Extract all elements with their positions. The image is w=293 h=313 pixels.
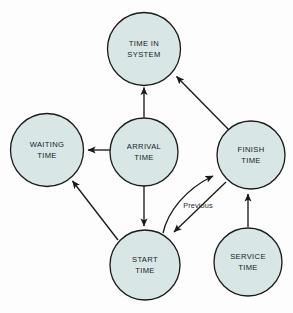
node-start-time[interactable]: START TIME (110, 230, 180, 300)
node-circle-service-time[interactable] (214, 228, 282, 296)
node-label-finish-time-line2: TIME (241, 156, 261, 165)
flow-diagram: Previous TIME IN SYSTEM WAITING TIME ARR… (0, 0, 293, 313)
node-label-time-in-system-line1: TIME IN (129, 39, 159, 48)
node-time-in-system[interactable]: TIME IN SYSTEM (108, 13, 181, 86)
node-label-start-time-line1: START (132, 255, 158, 264)
edge-finish-to-start-previous: Previous (174, 182, 226, 232)
node-service-time[interactable]: SERVICE TIME (214, 228, 282, 296)
node-label-service-time-line2: TIME (238, 263, 258, 272)
node-label-arrival-time-line2: TIME (134, 153, 154, 162)
edge-arrow-start-to-waiting (73, 181, 119, 240)
node-label-start-time-line2: TIME (135, 266, 155, 275)
node-label-waiting-time-line2: TIME (37, 151, 57, 160)
node-finish-time[interactable]: FINISH TIME (217, 121, 285, 189)
node-arrival-time[interactable]: ARRIVAL TIME (110, 118, 178, 186)
edge-finish-to-time-in-system (177, 77, 231, 132)
node-label-waiting-time-line1: WAITING (30, 140, 65, 149)
node-circle-waiting-time[interactable] (11, 114, 84, 187)
node-label-finish-time-line1: FINISH (238, 145, 265, 154)
edge-arrow-finish-to-time-in-system (177, 77, 231, 132)
node-label-arrival-time-line1: ARRIVAL (127, 142, 161, 151)
node-circle-finish-time[interactable] (217, 121, 285, 189)
node-circle-arrival-time[interactable] (110, 118, 178, 186)
node-label-service-time-line1: SERVICE (230, 252, 266, 261)
edge-start-to-waiting (73, 181, 119, 240)
edge-label-previous: Previous (183, 201, 213, 210)
node-circle-time-in-system[interactable] (108, 13, 181, 86)
diagram-canvas: Previous TIME IN SYSTEM WAITING TIME ARR… (0, 0, 293, 313)
node-label-time-in-system-line2: SYSTEM (127, 50, 160, 59)
node-circle-start-time[interactable] (110, 230, 180, 300)
node-waiting-time[interactable]: WAITING TIME (11, 114, 84, 187)
